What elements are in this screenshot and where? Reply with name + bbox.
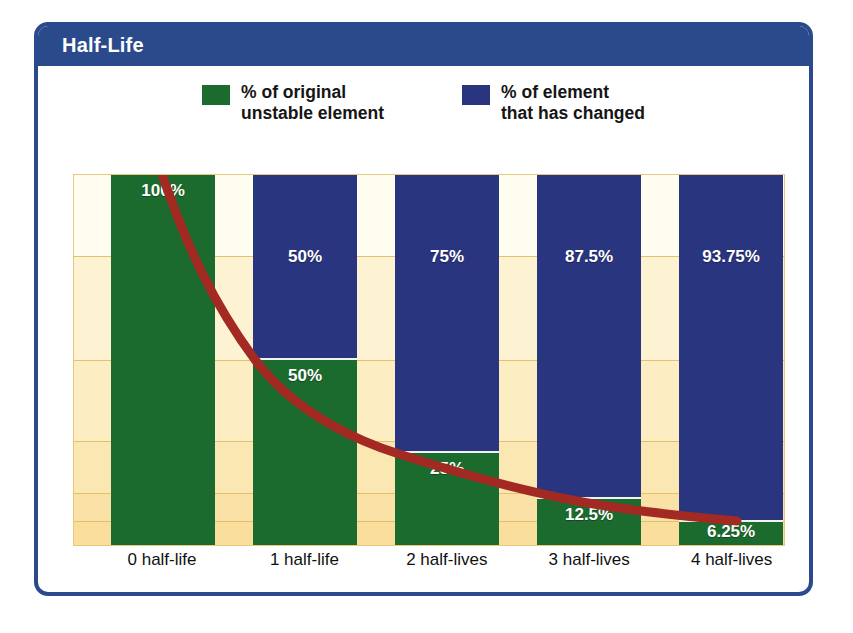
half-life-chart-panel: Half-Life % of original unstable element… (34, 22, 813, 596)
bar-segment-blue: 75% (395, 175, 499, 453)
bar-label-blue: 87.5% (565, 247, 613, 267)
panel-title-bar: Half-Life (38, 26, 809, 66)
bar-segment-blue: 93.75% (679, 175, 783, 522)
bar-label-green: 6.25% (707, 522, 755, 542)
bar-label-blue: 75% (430, 247, 464, 267)
bar-segment-green: 12.5% (537, 499, 641, 545)
bar-segment-blue: 50% (253, 175, 357, 360)
bar-label-green: 50% (288, 366, 322, 386)
legend-swatch-blue-icon (462, 85, 490, 105)
legend-label-blue: % of element that has changed (501, 82, 645, 125)
x-axis-label: 4 half-lives (643, 550, 813, 570)
bar-label-green: 12.5% (565, 505, 613, 525)
bar-label-green: 25% (430, 459, 464, 479)
bar-2-half-lives: 75% 25% (395, 175, 499, 545)
bar-segment-green: 100% (111, 175, 215, 545)
bar-segment-green: 25% (395, 453, 499, 546)
chart-legend: % of original unstable element % of elem… (38, 82, 809, 125)
bar-segment-green: 50% (253, 360, 357, 545)
legend-label-green: % of original unstable element (241, 82, 384, 125)
bar-label-blue: 50% (288, 247, 322, 267)
bar-label-blue: 93.75% (702, 247, 760, 267)
bar-segment-blue: 87.5% (537, 175, 641, 499)
page-title: Half-Life (62, 34, 144, 57)
legend-item-green: % of original unstable element (202, 82, 384, 125)
legend-item-blue: % of element that has changed (462, 82, 645, 125)
plot-area: 100% 50% 50% 75% 25% 87.5% 12.5% (73, 174, 785, 546)
bar-segment-green: 6.25% (679, 522, 783, 545)
legend-swatch-green-icon (202, 85, 230, 105)
bar-1-half-life: 50% 50% (253, 175, 357, 545)
bar-label-green: 100% (141, 181, 184, 201)
bar-4-half-lives: 93.75% 6.25% (679, 175, 783, 545)
bar-3-half-lives: 87.5% 12.5% (537, 175, 641, 545)
x-axis-labels: 0 half-life 1 half-life 2 half-lives 3 h… (73, 550, 785, 584)
bar-0-half-life: 100% (111, 175, 215, 545)
